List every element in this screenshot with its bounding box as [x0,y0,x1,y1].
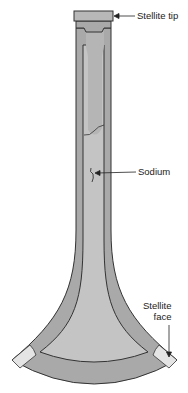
stellite-face-label-line2: face [143,311,172,322]
valve-diagram [0,0,188,393]
cavity-upper [86,28,104,135]
stellite-tip [74,11,113,21]
sodium-label: Sodium [138,166,170,177]
stellite-tip-label: Stellite tip [137,10,178,21]
stellite-face-label: Stellite face [143,300,172,322]
stellite-face-label-line1: Stellite [143,300,172,311]
